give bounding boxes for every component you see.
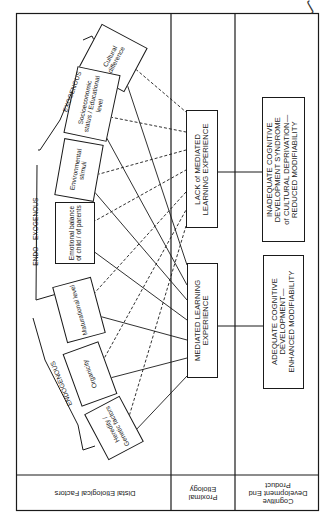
factor-emotional-balance: Emotional balance of child / of parents (55, 202, 95, 264)
adequate-line3: ENHANCED MODIFIABILITY (288, 271, 296, 373)
inadequate-line4: REDUCED MODIFIABILITY (292, 114, 300, 224)
group-label-endo-exogenous: ENDO—EXOGENOUS (32, 192, 39, 272)
box-lack-of-mediated-learning: LACK of MEDIATED LEARNING EXPERIENCE (186, 110, 218, 228)
diagram-figure: Cultural difference Socioeconomic status… (0, 0, 331, 529)
row-label-distal: Distal Etiological Factors (40, 478, 150, 508)
row-label-proximal: Proximal Etiology (178, 478, 228, 508)
row-label-end-product: Cognitive Development End Product (246, 478, 310, 508)
box-adequate-cognitive-development: ADEQUATE COGNITIVE DEVELOPMENT— ENHANCED… (263, 255, 304, 389)
mle-line2: EXPERIENCE (203, 280, 211, 361)
box-inadequate-cognitive-development: INADEQUATE COGNITIVE DEVELOPMENT SYNDROM… (262, 97, 305, 242)
lack-mle-line2: LEARNING EXPERIENCE (202, 123, 210, 215)
box-mediated-learning: MEDIATED LEARNING EXPERIENCE (187, 263, 218, 378)
